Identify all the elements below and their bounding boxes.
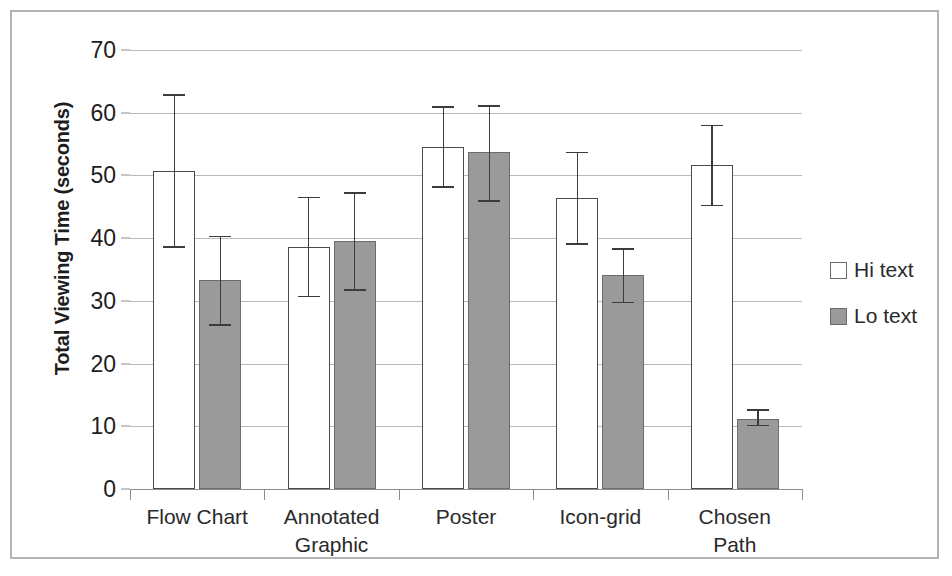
- x-axis-tick-2: [399, 489, 400, 500]
- error-bar-cap-top: [432, 106, 454, 108]
- error-bar-stem: [577, 152, 578, 245]
- y-tick-mark-30: [121, 300, 130, 301]
- bar-group: [422, 50, 510, 489]
- error-bar-cap-bottom: [209, 324, 231, 326]
- x-axis-tick-3: [533, 489, 534, 500]
- y-tick-mark-10: [121, 426, 130, 427]
- chart-legend: Hi textLo text: [830, 258, 950, 350]
- legend-swatch-open-square: [830, 262, 847, 279]
- y-tick-mark-0: [121, 489, 130, 490]
- bar: [422, 147, 464, 489]
- error-bar-cap-top: [747, 409, 769, 411]
- error-bar-stem: [623, 248, 624, 303]
- error-bar-cap-bottom: [566, 243, 588, 245]
- error-bar-cap-top: [566, 152, 588, 154]
- chart-figure: Total Viewing Time (seconds) 01020304050…: [0, 0, 952, 576]
- y-tick-mark-20: [121, 363, 130, 364]
- x-axis-category-label: Annotated Graphic: [264, 503, 398, 558]
- y-tick-label-20: 20: [90, 350, 116, 377]
- error-bar-stem: [354, 192, 355, 290]
- x-axis-tick-1: [264, 489, 265, 500]
- error-bar-cap-bottom: [478, 200, 500, 202]
- y-tick-label-40: 40: [90, 225, 116, 252]
- legend-label: Hi text: [854, 258, 914, 282]
- error-bar-stem: [443, 106, 444, 188]
- y-tick-label-70: 70: [90, 37, 116, 64]
- error-bar-cap-bottom: [163, 246, 185, 248]
- error-bar-cap-top: [163, 94, 185, 96]
- x-axis-category-label: Poster: [399, 503, 533, 531]
- figure-frame: Total Viewing Time (seconds) 01020304050…: [10, 10, 939, 559]
- error-bar-cap-top: [344, 192, 366, 194]
- x-axis-category-label: Icon-grid: [533, 503, 667, 531]
- error-bar-cap-top: [701, 125, 723, 127]
- x-axis-category-label: Flow Chart: [130, 503, 264, 531]
- error-bar-cap-top: [298, 197, 320, 199]
- y-tick-label-10: 10: [90, 413, 116, 440]
- legend-item: Lo text: [830, 304, 950, 328]
- y-tick-mark-60: [121, 112, 130, 113]
- error-bar-cap-top: [209, 236, 231, 238]
- error-bar-cap-top: [478, 105, 500, 107]
- bar: [602, 275, 644, 489]
- legend-swatch-filled-square: [830, 308, 847, 325]
- error-bar-cap-bottom: [612, 302, 634, 304]
- bar: [691, 165, 733, 489]
- x-axis-tick-4: [668, 489, 669, 500]
- error-bar-cap-bottom: [344, 289, 366, 291]
- bar-group: [153, 50, 241, 489]
- gridline-0: [130, 489, 802, 490]
- error-bar-cap-bottom: [298, 296, 320, 298]
- error-bar-stem: [220, 236, 221, 326]
- error-bar-stem: [489, 105, 490, 202]
- bar-group: [691, 50, 779, 489]
- y-tick-mark-50: [121, 175, 130, 176]
- error-bar-cap-bottom: [747, 425, 769, 427]
- x-axis-tick-5: [802, 489, 803, 500]
- y-tick-label-0: 0: [103, 476, 116, 503]
- bar-group: [556, 50, 644, 489]
- x-axis-category-label: Chosen Path: [668, 503, 802, 558]
- error-bar-cap-bottom: [701, 205, 723, 207]
- error-bar-cap-bottom: [432, 186, 454, 188]
- plot-area: 010203040506070 Flow ChartAnnotated Grap…: [130, 50, 802, 489]
- y-tick-label-50: 50: [90, 162, 116, 189]
- y-axis-title: Total Viewing Time (seconds): [51, 39, 74, 439]
- legend-item: Hi text: [830, 258, 950, 282]
- y-tick-label-60: 60: [90, 99, 116, 126]
- bar-group: [288, 50, 376, 489]
- error-bar-cap-top: [612, 248, 634, 250]
- bar: [737, 419, 779, 489]
- error-bar-stem: [308, 197, 309, 297]
- y-tick-mark-70: [121, 50, 130, 51]
- y-tick-label-30: 30: [90, 287, 116, 314]
- error-bar-stem: [174, 94, 175, 248]
- bar: [468, 152, 510, 489]
- legend-label: Lo text: [854, 304, 917, 328]
- y-tick-mark-40: [121, 238, 130, 239]
- error-bar-stem: [711, 125, 712, 207]
- x-axis-tick-0: [130, 489, 131, 500]
